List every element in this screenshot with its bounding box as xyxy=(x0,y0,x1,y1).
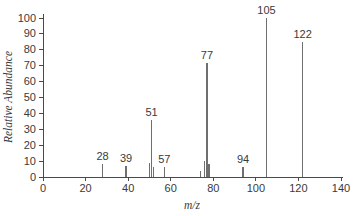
peak-label: 122 xyxy=(294,28,312,40)
y-tick-label: 90 xyxy=(24,27,36,39)
y-tick-label: 0 xyxy=(30,171,36,183)
peak-label: 39 xyxy=(120,152,132,164)
y-tick-label: 30 xyxy=(24,123,36,135)
mass-spectrum-chart: 0204060801001201400102030405060708090100… xyxy=(0,0,356,216)
peak-label: 28 xyxy=(96,150,108,162)
x-axis-label: m/z xyxy=(184,200,200,212)
x-tick-label: 80 xyxy=(207,182,219,194)
y-tick-label: 20 xyxy=(24,139,36,151)
y-tick-label: 10 xyxy=(24,155,36,167)
peak-bars xyxy=(103,18,303,177)
x-tick-label: 100 xyxy=(247,182,265,194)
x-tick-label: 20 xyxy=(79,182,91,194)
peak-label: 77 xyxy=(201,49,213,61)
y-tick-label: 80 xyxy=(24,43,36,55)
peak-label: 94 xyxy=(237,153,249,165)
peak-label: 51 xyxy=(145,106,157,118)
y-tick-label: 40 xyxy=(24,107,36,119)
peak-label: 57 xyxy=(158,153,170,165)
y-tick-label: 60 xyxy=(24,75,36,87)
peak-labels: 283951577794105122 xyxy=(96,4,311,165)
x-tick-label: 60 xyxy=(165,182,177,194)
peak-label: 105 xyxy=(257,4,275,16)
x-tick-label: 140 xyxy=(332,182,350,194)
y-tick-label: 100 xyxy=(18,12,36,24)
mass-spectrum-figure: 0204060801001201400102030405060708090100… xyxy=(0,0,356,216)
x-tick-label: 40 xyxy=(122,182,134,194)
y-tick-label: 50 xyxy=(24,91,36,103)
y-tick-label: 70 xyxy=(24,59,36,71)
y-axis-label: Relative Abundance xyxy=(3,51,15,143)
x-tick-label: 120 xyxy=(289,182,307,194)
x-tick-label: 0 xyxy=(40,182,46,194)
